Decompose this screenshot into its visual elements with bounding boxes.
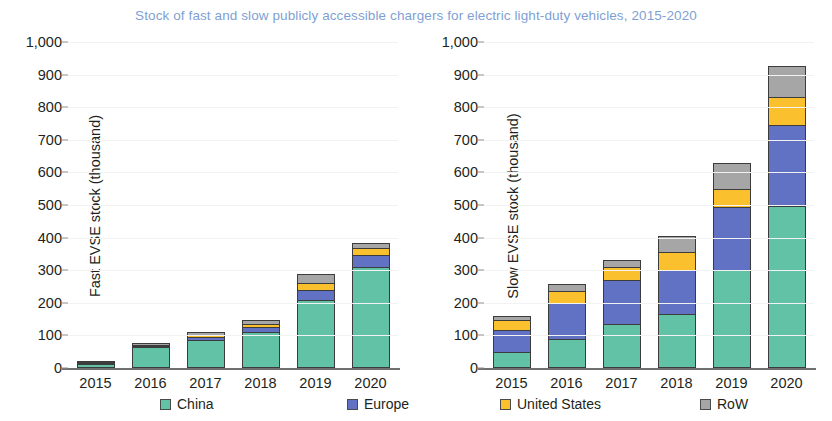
gridline <box>484 270 814 271</box>
x-axis-line-right <box>478 368 816 370</box>
y-tick-label: 600 <box>454 164 478 180</box>
y-tick-mark <box>62 74 68 75</box>
bar-segment-europe <box>352 255 390 267</box>
legend-item-row[interactable]: RoW <box>700 396 748 412</box>
gridline <box>484 205 814 206</box>
bar-2017 <box>187 332 225 368</box>
legend-label: Europe <box>364 396 409 412</box>
x-axis-label: 2019 <box>713 375 751 391</box>
legend-swatch-icon <box>700 399 711 410</box>
bar-2019 <box>713 163 751 368</box>
y-tick-mark <box>62 270 68 271</box>
legend-item-united-states[interactable]: United States <box>500 396 601 412</box>
bar-segment-row <box>297 274 335 282</box>
legend-swatch-icon <box>347 399 358 410</box>
gridline <box>68 238 398 239</box>
bar-segment-china <box>352 267 390 368</box>
y-tick-label: 900 <box>38 67 62 83</box>
bar-2020 <box>352 243 390 368</box>
y-tick-label: 300 <box>454 262 478 278</box>
y-tick-mark <box>62 368 68 369</box>
bar-2015 <box>77 361 115 369</box>
bar-segment-europe <box>493 330 531 353</box>
bar-2016 <box>548 284 586 368</box>
bar-segment-china <box>768 206 806 368</box>
y-axis-ticks-left: 01002003004005006007008009001,000 <box>0 42 62 368</box>
y-tick-mark <box>478 139 484 140</box>
chart-panel-fast-evse: Fast EVSE stock (thousand) 0100200300400… <box>0 30 416 382</box>
bar-segment-europe <box>548 303 586 339</box>
y-tick-mark <box>478 205 484 206</box>
bar-segment-china <box>603 324 641 368</box>
bar-segment-row <box>548 284 586 291</box>
gridline <box>68 303 398 304</box>
gridline <box>484 42 814 43</box>
bar-segment-china <box>548 339 586 368</box>
y-tick-label: 400 <box>38 230 62 246</box>
y-tick-label: 0 <box>470 360 478 376</box>
bar-segment-china <box>658 314 696 368</box>
y-tick-label: 700 <box>38 132 62 148</box>
gridline <box>484 140 814 141</box>
y-tick-mark <box>478 107 484 108</box>
y-tick-mark <box>478 368 484 369</box>
bar-segment-united-states <box>713 189 751 207</box>
bar-segment-united-states <box>297 283 335 290</box>
x-axis-label: 2017 <box>603 375 641 391</box>
x-axis-label: 2015 <box>493 375 531 391</box>
legend-swatch-icon <box>160 399 171 410</box>
y-tick-label: 700 <box>454 132 478 148</box>
bar-segment-china <box>242 332 280 368</box>
bar-segment-china <box>297 300 335 368</box>
y-tick-mark <box>478 302 484 303</box>
bar-segment-united-states <box>658 252 696 270</box>
gridline <box>68 270 398 271</box>
y-tick-label: 900 <box>454 67 478 83</box>
page-title: Stock of fast and slow publicly accessib… <box>0 8 832 23</box>
y-tick-label: 1,000 <box>26 34 62 50</box>
y-tick-mark <box>62 172 68 173</box>
y-tick-mark <box>62 302 68 303</box>
y-tick-label: 500 <box>454 197 478 213</box>
gridline <box>484 303 814 304</box>
y-tick-label: 500 <box>38 197 62 213</box>
y-tick-label: 800 <box>454 99 478 115</box>
x-axis-label: 2017 <box>187 375 225 391</box>
bar-segment-china <box>493 352 531 368</box>
gridline <box>484 335 814 336</box>
bar-segment-china <box>132 347 170 368</box>
legend-item-europe[interactable]: Europe <box>347 396 409 412</box>
bar-2017 <box>603 260 641 368</box>
gridline <box>68 335 398 336</box>
bar-2018 <box>242 320 280 368</box>
bar-segment-europe <box>768 125 806 206</box>
y-tick-label: 400 <box>454 230 478 246</box>
x-axis-label: 2020 <box>768 375 806 391</box>
bar-segment-united-states <box>548 291 586 303</box>
bar-segment-united-states <box>603 267 641 280</box>
x-axis-label: 2018 <box>242 375 280 391</box>
bar-segment-row <box>768 66 806 97</box>
legend-item-china[interactable]: China <box>160 396 214 412</box>
y-tick-mark <box>478 335 484 336</box>
y-tick-mark <box>62 107 68 108</box>
gridline <box>68 107 398 108</box>
bar-2020 <box>768 66 806 368</box>
bar-segment-united-states <box>493 320 531 329</box>
y-axis-ticks-right: 01002003004005006007008009001,000 <box>416 42 478 368</box>
bar-2016 <box>132 343 170 368</box>
bar-segment-china <box>187 340 225 368</box>
gridline <box>484 75 814 76</box>
x-axis-labels-right: 201520162017201820192020 <box>484 375 814 391</box>
y-tick-label: 600 <box>38 164 62 180</box>
y-tick-mark <box>478 172 484 173</box>
y-tick-mark <box>62 335 68 336</box>
y-tick-mark <box>62 139 68 140</box>
y-tick-mark <box>478 74 484 75</box>
bar-2019 <box>297 274 335 368</box>
y-tick-label: 800 <box>38 99 62 115</box>
legend-label: RoW <box>717 396 748 412</box>
chart-panel-slow-evse: Slow EVSE stock (thousand) 0100200300400… <box>416 30 832 382</box>
gridline <box>68 172 398 173</box>
y-tick-label: 300 <box>38 262 62 278</box>
